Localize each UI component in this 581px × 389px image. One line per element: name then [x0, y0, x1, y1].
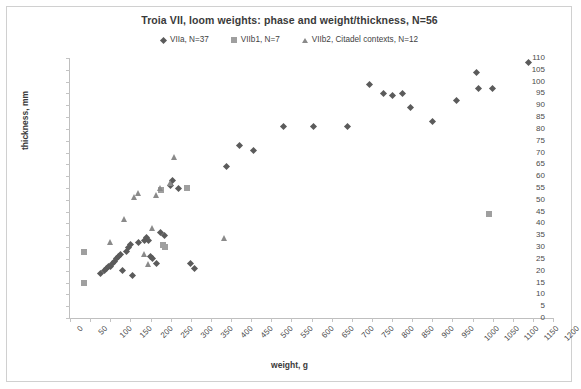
y-tick-label: 80: [536, 124, 545, 133]
data-point: [473, 69, 480, 76]
x-tick: [110, 318, 111, 322]
y-tick-label: 20: [536, 266, 545, 275]
legend-label-viib1: VIIb1, N=7: [241, 36, 280, 44]
data-point: [81, 280, 87, 286]
x-axis-title: weight, g: [0, 360, 579, 370]
data-point: [145, 236, 152, 243]
data-point: [486, 211, 492, 217]
data-point: [135, 190, 141, 196]
y-tick-label: 75: [536, 136, 545, 145]
data-point: [81, 249, 87, 255]
legend-label-viib2: VIIb2, Citadel contexts, N=12: [312, 36, 418, 44]
x-tick: [211, 318, 212, 322]
y-tick: [66, 176, 70, 177]
chart-title: Troia VII, loom weights: phase and weigh…: [0, 14, 579, 26]
data-point: [162, 244, 168, 250]
data-point: [149, 225, 155, 231]
x-tick: [231, 318, 232, 322]
y-tick: [66, 200, 70, 201]
data-point: [310, 123, 317, 130]
y-tick-label: 50: [536, 195, 545, 204]
y-tick: [66, 105, 70, 106]
x-tick: [533, 318, 534, 322]
y-tick: [66, 294, 70, 295]
y-tick-label: 45: [536, 207, 545, 216]
data-point: [236, 142, 243, 149]
x-tick: [452, 318, 453, 322]
y-tick-label: 55: [536, 183, 545, 192]
legend-label-viia: VIIa, N=37: [170, 36, 209, 44]
data-point: [141, 251, 147, 257]
data-point: [153, 260, 160, 267]
y-tick: [66, 164, 70, 165]
plot-area: 0510152025303540455055606570758085909510…: [70, 58, 553, 318]
data-point: [380, 90, 387, 97]
y-tick-label: 85: [536, 112, 545, 121]
data-point: [221, 235, 227, 241]
legend-marker-diamond-icon: [160, 37, 167, 44]
y-tick: [66, 82, 70, 83]
data-point: [157, 185, 163, 191]
data-point: [121, 216, 127, 222]
x-tick: [191, 318, 192, 322]
data-point: [475, 85, 482, 92]
data-point: [429, 118, 436, 125]
data-point: [407, 104, 414, 111]
x-tick: [473, 318, 474, 322]
data-point: [167, 180, 173, 186]
y-tick-label: 90: [536, 100, 545, 109]
y-tick-label: 10: [536, 289, 545, 298]
y-tick-label: 100: [532, 77, 545, 86]
data-point: [250, 147, 257, 154]
y-tick: [66, 117, 70, 118]
data-point: [191, 265, 198, 272]
y-tick-label: 110: [532, 53, 545, 62]
y-tick-label: 95: [536, 88, 545, 97]
y-tick-label: 0: [541, 313, 545, 322]
legend-marker-square-icon: [231, 37, 237, 43]
y-tick: [66, 188, 70, 189]
x-tick: [251, 318, 252, 322]
legend-marker-triangle-icon: [302, 38, 308, 43]
y-tick: [66, 70, 70, 71]
y-tick: [66, 235, 70, 236]
y-tick-label: 70: [536, 148, 545, 157]
y-tick: [66, 259, 70, 260]
y-tick: [66, 306, 70, 307]
data-point: [489, 85, 496, 92]
y-tick: [66, 58, 70, 59]
data-point: [119, 267, 126, 274]
x-tick: [352, 318, 353, 322]
data-point: [171, 154, 177, 160]
data-point: [161, 232, 168, 239]
data-point: [129, 272, 136, 279]
x-tick: [412, 318, 413, 322]
x-tick: [372, 318, 373, 322]
data-point: [280, 123, 287, 130]
y-axis-title: thickness, mm: [20, 91, 30, 150]
data-point: [175, 184, 182, 191]
data-point: [453, 97, 460, 104]
y-tick-label: 60: [536, 171, 545, 180]
x-tick: [392, 318, 393, 322]
legend-item-viib1: VIIb1, N=7: [231, 36, 280, 44]
x-tick: [171, 318, 172, 322]
y-tick-label: 30: [536, 242, 545, 251]
chart-legend: VIIa, N=37 VIIb1, N=7 VIIb2, Citadel con…: [0, 36, 579, 44]
data-point: [399, 90, 406, 97]
y-tick: [66, 129, 70, 130]
x-tick: [90, 318, 91, 322]
y-tick: [66, 141, 70, 142]
x-tick: [432, 318, 433, 322]
data-point: [145, 261, 151, 267]
x-tick: [493, 318, 494, 322]
x-tick: [312, 318, 313, 322]
data-point: [344, 123, 351, 130]
legend-item-viia: VIIa, N=37: [161, 36, 209, 44]
x-tick: [70, 318, 71, 322]
y-tick-label: 15: [536, 278, 545, 287]
y-tick-label: 105: [532, 65, 545, 74]
x-tick: [151, 318, 152, 322]
y-tick: [66, 93, 70, 94]
